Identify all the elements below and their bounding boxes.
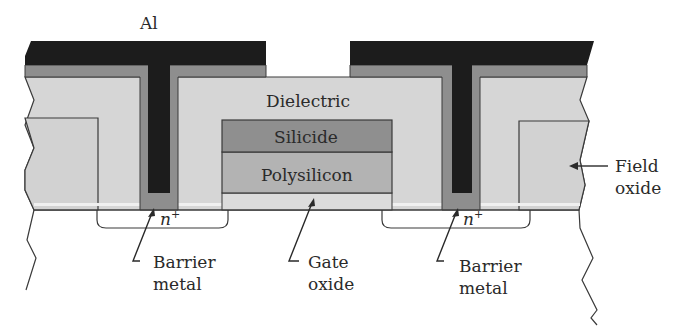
label-aluminum: Al — [139, 13, 158, 33]
label-dielectric: Dielectric — [266, 91, 350, 111]
label-field-oxide-2: oxide — [615, 178, 661, 198]
label-silicide: Silicide — [274, 127, 338, 147]
label-n-plus-right: n+ — [463, 208, 483, 229]
label-gate-oxide-2: oxide — [308, 274, 354, 294]
barrier-left-leader — [133, 213, 152, 261]
mosfet-cross-section-diagram: Al Dielectric Silicide Polysilicon n+ n+… — [0, 0, 678, 326]
label-gate-oxide-1: Gate — [308, 252, 349, 272]
label-barrier-right-1: Barrier — [459, 256, 522, 276]
label-n-plus-left: n+ — [160, 208, 180, 229]
label-barrier-right-2: metal — [459, 278, 508, 298]
label-barrier-left-1: Barrier — [153, 252, 216, 272]
field-oxide-left — [25, 118, 98, 210]
gate-oxide — [222, 193, 392, 210]
label-barrier-left-2: metal — [153, 274, 202, 294]
label-field-oxide-1: Field — [615, 156, 659, 176]
substrate-break-left — [26, 210, 36, 290]
barrier-right-leader — [437, 213, 456, 261]
label-polysilicon: Polysilicon — [261, 165, 353, 185]
substrate-break-right — [579, 210, 597, 325]
